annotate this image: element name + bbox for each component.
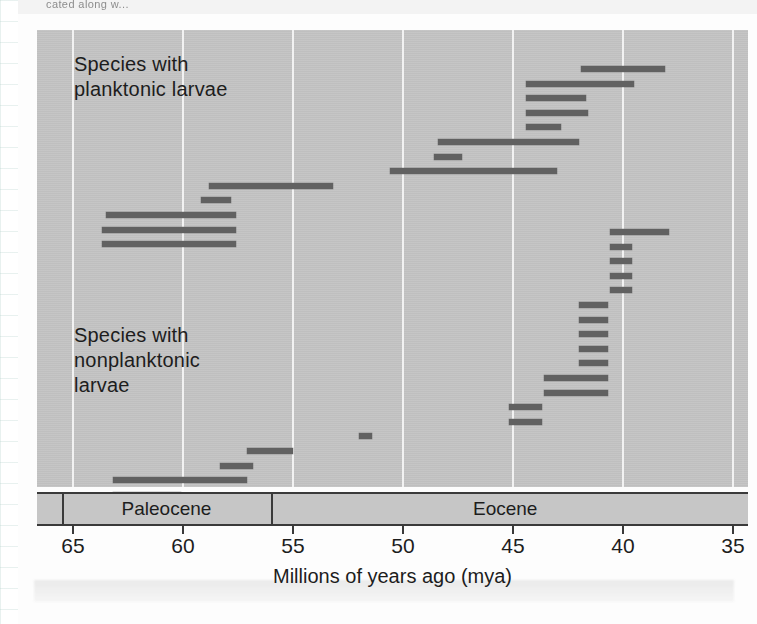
range-bar-nonplanktonic-14 [509, 419, 542, 425]
axis-tick-40 [622, 526, 624, 534]
range-bar-planktonic-6 [438, 139, 579, 145]
range-bar-planktonic-13 [102, 241, 236, 247]
range-bar-planktonic-1 [581, 66, 665, 72]
axis-tick-label-45: 45 [501, 534, 524, 558]
range-bar-planktonic-3 [526, 95, 585, 101]
range-bar-planktonic-10 [201, 197, 232, 203]
range-bar-nonplanktonic-16 [247, 448, 293, 454]
range-bar-planktonic-2 [526, 81, 634, 87]
axis-tick-label-55: 55 [281, 534, 304, 558]
axis-tick-50 [402, 526, 404, 534]
range-bar-nonplanktonic-1 [610, 229, 669, 235]
range-bar-planktonic-9 [209, 183, 332, 189]
range-chart-plot-area: Species with planktonic larvae Species w… [37, 30, 748, 487]
epoch-eocene: Eocene [271, 494, 737, 524]
series-label-planktonic: Species with planktonic larvae [74, 52, 228, 102]
range-bar-planktonic-11 [106, 212, 236, 218]
bleed-text: cated along w... [46, 0, 129, 10]
gridline-35mya [732, 30, 734, 487]
range-bar-nonplanktonic-18 [113, 477, 247, 483]
gridline-55mya [292, 30, 294, 487]
range-bar-planktonic-5 [526, 124, 561, 130]
x-axis-title: Millions of years ago (mya) [37, 565, 748, 588]
range-bar-nonplanktonic-13 [509, 404, 542, 410]
range-bar-planktonic-7 [434, 154, 463, 160]
range-bar-nonplanktonic-5 [610, 287, 632, 293]
range-bar-nonplanktonic-6 [579, 302, 608, 308]
range-bar-nonplanktonic-8 [579, 331, 608, 337]
range-bar-nonplanktonic-11 [544, 375, 608, 381]
axis-tick-label-60: 60 [171, 534, 194, 558]
series-label-nonplanktonic: Species with nonplanktonic larvae [74, 323, 200, 398]
range-bar-nonplanktonic-7 [579, 317, 608, 323]
epoch-band-start-rule [62, 494, 64, 524]
epoch-label: Eocene [473, 498, 537, 520]
axis-tick-55 [292, 526, 294, 534]
axis-tick-65 [72, 526, 74, 534]
range-bar-planktonic-12 [102, 227, 236, 233]
axis-tick-35 [732, 526, 734, 534]
range-bar-nonplanktonic-3 [610, 258, 632, 264]
range-bar-nonplanktonic-9 [579, 346, 608, 352]
epoch-band: PaleoceneEocene [37, 492, 748, 526]
axis-tick-label-40: 40 [611, 534, 634, 558]
axis-tick-45 [512, 526, 514, 534]
range-bar-planktonic-8 [390, 168, 557, 174]
range-bar-nonplanktonic-12 [544, 390, 608, 396]
range-bar-nonplanktonic-15 [359, 433, 372, 439]
axis-tick-label-65: 65 [61, 534, 84, 558]
range-bar-planktonic-4 [526, 110, 588, 116]
range-bar-nonplanktonic-2 [610, 244, 632, 250]
page-bleed-top [18, 0, 757, 14]
epoch-label: Paleocene [122, 498, 212, 520]
range-bar-nonplanktonic-17 [220, 463, 253, 469]
epoch-paleocene: Paleocene [62, 494, 271, 524]
gridline-50mya [402, 30, 404, 487]
axis-tick-label-50: 50 [391, 534, 414, 558]
scanned-page: cated along w... Species with planktonic… [0, 0, 757, 624]
axis-tick-60 [182, 526, 184, 534]
axis-tick-label-35: 35 [721, 534, 744, 558]
range-bar-nonplanktonic-4 [610, 273, 632, 279]
range-bar-nonplanktonic-10 [579, 360, 608, 366]
